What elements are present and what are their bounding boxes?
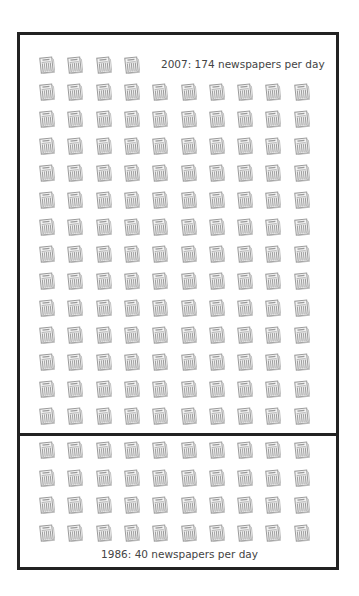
newspaper-icon <box>67 272 83 290</box>
newspaper-icon <box>67 407 83 425</box>
newspaper-icon <box>294 164 310 182</box>
newspaper-icon <box>181 110 197 128</box>
newspaper-icon <box>39 83 55 101</box>
newspaper-icon <box>124 326 140 344</box>
newspaper-icon <box>124 272 140 290</box>
newspaper-icon <box>124 299 140 317</box>
newspaper-icon <box>181 469 197 487</box>
newspaper-icon <box>152 137 168 155</box>
newspaper-icon <box>96 110 112 128</box>
newspaper-icon <box>152 524 168 542</box>
newspaper-icon <box>67 56 83 74</box>
newspaper-icon <box>96 469 112 487</box>
newspaper-icon <box>209 299 225 317</box>
newspaper-icon <box>124 407 140 425</box>
newspaper-icon <box>209 110 225 128</box>
newspaper-icon <box>237 110 253 128</box>
newspaper-icon <box>67 326 83 344</box>
newspaper-icon <box>294 441 310 459</box>
newspaper-icon <box>124 496 140 514</box>
newspaper-icon <box>265 272 281 290</box>
newspaper-icon <box>124 191 140 209</box>
newspaper-icon <box>265 299 281 317</box>
newspaper-icon <box>39 272 55 290</box>
newspaper-icon <box>39 164 55 182</box>
newspaper-icon <box>237 272 253 290</box>
newspaper-icon <box>294 137 310 155</box>
pictogram-frame <box>17 32 339 570</box>
newspaper-icon <box>152 83 168 101</box>
newspaper-icon <box>237 299 253 317</box>
newspaper-icon <box>209 272 225 290</box>
newspaper-icon <box>96 245 112 263</box>
newspaper-icon <box>294 218 310 236</box>
newspaper-icon <box>181 218 197 236</box>
newspaper-icon <box>209 191 225 209</box>
newspaper-icon <box>152 496 168 514</box>
newspaper-icon <box>96 56 112 74</box>
newspaper-icon <box>181 326 197 344</box>
newspaper-icon <box>124 218 140 236</box>
newspaper-icon <box>124 380 140 398</box>
newspaper-icon <box>124 56 140 74</box>
newspaper-icon <box>124 441 140 459</box>
newspaper-icon <box>265 137 281 155</box>
newspaper-icon <box>67 380 83 398</box>
newspaper-icon <box>67 441 83 459</box>
newspaper-icon <box>96 272 112 290</box>
newspaper-icon <box>124 245 140 263</box>
newspaper-icon <box>67 218 83 236</box>
newspaper-icon <box>96 137 112 155</box>
newspaper-icon <box>39 524 55 542</box>
newspaper-icon <box>294 407 310 425</box>
newspaper-icon <box>67 299 83 317</box>
newspaper-icon <box>294 83 310 101</box>
newspaper-icon <box>265 524 281 542</box>
label-1986: 1986: 40 newspapers per day <box>0 548 359 560</box>
newspaper-icon <box>265 380 281 398</box>
newspaper-icon <box>265 469 281 487</box>
newspaper-icon <box>265 407 281 425</box>
newspaper-icon <box>39 137 55 155</box>
newspaper-icon <box>67 245 83 263</box>
newspaper-icon <box>209 164 225 182</box>
newspaper-icon <box>209 353 225 371</box>
newspaper-icon <box>209 245 225 263</box>
newspaper-icon <box>96 164 112 182</box>
newspaper-icon <box>39 110 55 128</box>
newspaper-icon <box>294 272 310 290</box>
newspaper-icon <box>96 326 112 344</box>
newspaper-icon <box>39 326 55 344</box>
newspaper-icon <box>181 407 197 425</box>
newspaper-icon <box>294 524 310 542</box>
newspaper-icon <box>39 56 55 74</box>
newspaper-icon <box>39 353 55 371</box>
newspaper-icon <box>265 83 281 101</box>
newspaper-icon <box>67 191 83 209</box>
newspaper-icon <box>152 272 168 290</box>
newspaper-icon <box>152 299 168 317</box>
newspaper-icon <box>237 245 253 263</box>
newspaper-icon <box>124 469 140 487</box>
newspaper-icon <box>265 245 281 263</box>
newspaper-icon <box>152 110 168 128</box>
newspaper-icon <box>152 353 168 371</box>
newspaper-icon <box>67 496 83 514</box>
newspaper-icon <box>152 326 168 344</box>
newspaper-icon <box>152 441 168 459</box>
newspaper-icon <box>294 299 310 317</box>
newspaper-icon <box>237 524 253 542</box>
newspaper-icon <box>39 245 55 263</box>
newspaper-icon <box>294 110 310 128</box>
newspaper-icon <box>181 496 197 514</box>
newspaper-icon <box>237 83 253 101</box>
newspaper-icon <box>209 83 225 101</box>
newspaper-icon <box>265 218 281 236</box>
newspaper-icon <box>67 524 83 542</box>
newspaper-icon <box>152 469 168 487</box>
newspaper-icon <box>181 353 197 371</box>
newspaper-icon <box>181 272 197 290</box>
newspaper-icon <box>152 218 168 236</box>
newspaper-icon <box>209 407 225 425</box>
newspaper-icon <box>237 164 253 182</box>
